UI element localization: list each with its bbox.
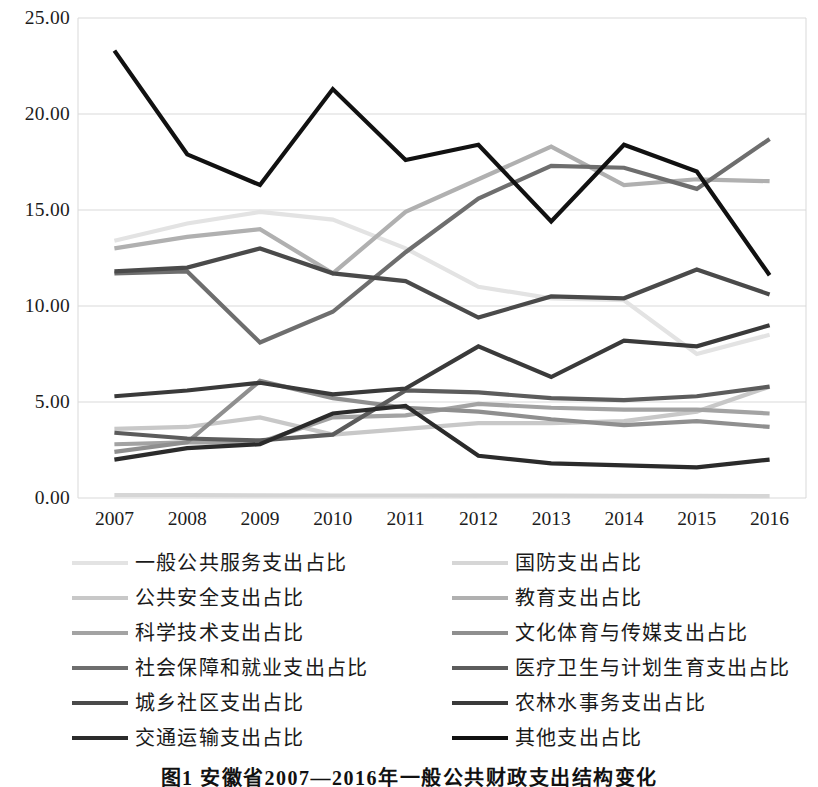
legend-item-label: 医疗卫生与计划生育支出占比 (515, 657, 791, 679)
legend-line-swatch (72, 736, 128, 740)
legend-item-label: 一般公共服务支出占比 (135, 552, 347, 574)
legend-line-swatch (72, 666, 128, 670)
figure-container: 0.005.0010.0015.0020.0025.00 20072008200… (0, 0, 818, 787)
x-axis-tick-label: 2009 (241, 507, 280, 531)
legend-column-left: 一般公共服务支出占比公共安全支出占比科学技术支出占比社会保障和就业支出占比城乡社… (72, 545, 462, 755)
legend-column-right: 国防支出占比教育支出占比文化体育与传媒支出占比医疗卫生与计划生育支出占比农林水事… (452, 545, 818, 755)
x-axis-tick-label: 2010 (313, 507, 352, 531)
legend-item[interactable]: 一般公共服务支出占比 (72, 545, 462, 580)
legend-item-label: 科学技术支出占比 (135, 622, 305, 644)
legend-item[interactable]: 社会保障和就业支出占比 (72, 650, 462, 685)
figure-caption: 图1 安徽省2007—2016年一般公共财政支出结构变化 (0, 766, 818, 787)
legend-item-label: 交通运输支出占比 (135, 727, 305, 749)
legend-item[interactable]: 城乡社区支出占比 (72, 685, 462, 720)
legend-item[interactable]: 交通运输支出占比 (72, 720, 462, 755)
legend-item[interactable]: 文化体育与传媒支出占比 (452, 615, 818, 650)
legend-line-swatch (72, 631, 128, 635)
series-line (114, 248, 769, 317)
chart-plot-area: 0.005.0010.0015.0020.0025.00 20072008200… (0, 0, 818, 540)
legend-item-label: 农林水事务支出占比 (515, 692, 706, 714)
x-axis-tick-label: 2011 (386, 507, 424, 531)
x-axis-tick-label: 2007 (95, 507, 134, 531)
legend-line-swatch (452, 561, 508, 565)
legend-line-swatch (452, 596, 508, 600)
legend-item-label: 城乡社区支出占比 (135, 692, 305, 714)
legend-item[interactable]: 国防支出占比 (452, 545, 818, 580)
legend-line-swatch (452, 666, 508, 670)
legend-line-swatch (452, 631, 508, 635)
x-axis-tick-label: 2008 (168, 507, 207, 531)
series-line (114, 139, 769, 343)
legend-item[interactable]: 科学技术支出占比 (72, 615, 462, 650)
legend-item-label: 公共安全支出占比 (135, 587, 305, 609)
x-axis: 2007200820092010201120122013201420152016 (0, 503, 818, 539)
legend-line-swatch (72, 596, 128, 600)
chart-legend: 一般公共服务支出占比公共安全支出占比科学技术支出占比社会保障和就业支出占比城乡社… (0, 545, 818, 757)
series-line (114, 495, 769, 496)
x-axis-tick-label: 2012 (459, 507, 498, 531)
legend-item-label: 教育支出占比 (515, 587, 642, 609)
legend-line-swatch (72, 561, 128, 565)
legend-item-label: 其他支出占比 (515, 727, 642, 749)
legend-item[interactable]: 农林水事务支出占比 (452, 685, 818, 720)
legend-item[interactable]: 其他支出占比 (452, 720, 818, 755)
legend-line-swatch (452, 736, 508, 740)
legend-item[interactable]: 医疗卫生与计划生育支出占比 (452, 650, 818, 685)
legend-line-swatch (452, 701, 508, 705)
series-line (114, 51, 769, 276)
x-axis-tick-label: 2013 (532, 507, 571, 531)
legend-item-label: 国防支出占比 (515, 552, 642, 574)
x-axis-tick-label: 2014 (605, 507, 644, 531)
x-axis-tick-label: 2016 (750, 507, 789, 531)
x-axis-tick-label: 2015 (677, 507, 716, 531)
legend-item[interactable]: 教育支出占比 (452, 580, 818, 615)
legend-item-label: 社会保障和就业支出占比 (135, 657, 368, 679)
line-chart-svg (0, 0, 818, 540)
legend-item[interactable]: 公共安全支出占比 (72, 580, 462, 615)
legend-item-label: 文化体育与传媒支出占比 (515, 622, 748, 644)
legend-line-swatch (72, 701, 128, 705)
